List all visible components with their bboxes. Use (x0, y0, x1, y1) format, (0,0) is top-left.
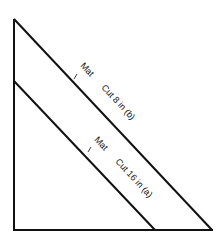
mat-label-a: Mat (93, 135, 111, 153)
mat-pointer-b (74, 74, 77, 79)
mat-cut-diagram: Mat Cut 8 in (b) Mat Cut 16 in (a) (0, 0, 224, 244)
mat-label-b: Mat (79, 61, 97, 79)
cut-line-b (14, 19, 212, 230)
cut-line-a (14, 81, 155, 230)
mat-pointer-a (88, 147, 91, 152)
